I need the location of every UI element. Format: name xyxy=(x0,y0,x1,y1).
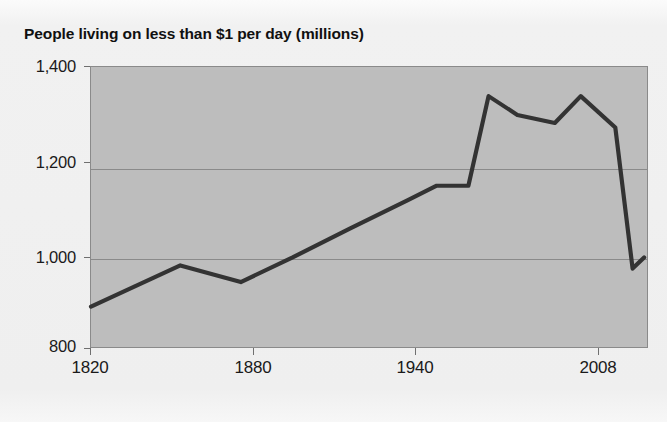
x-axis-tick-label-1880: 1880 xyxy=(208,358,298,378)
x-axis-tick-mark-1820 xyxy=(90,348,91,355)
y-axis-tick-label-1200: 1,200 xyxy=(6,153,76,172)
chart-figure: People living on less than $1 per day (m… xyxy=(0,0,667,422)
series-polyline xyxy=(91,96,644,307)
x-axis-tick-mark-1880 xyxy=(253,348,254,355)
x-axis-tick-label-1820: 1820 xyxy=(45,358,135,378)
x-axis-tick-mark-2008 xyxy=(598,348,599,355)
y-axis-tick-label-800: 800 xyxy=(6,337,76,356)
plot-wrapper: 1,400 1,200 1,000 800 1820 1880 1940 200… xyxy=(0,0,667,422)
y-axis-tick-label-1400: 1,400 xyxy=(6,57,76,76)
x-axis-tick-label-1940: 1940 xyxy=(370,358,460,378)
y-axis-tick-label-1000: 1,000 xyxy=(6,248,76,267)
x-axis-tick-label-2008: 2008 xyxy=(553,358,643,378)
data-series-line xyxy=(91,67,647,347)
x-axis-tick-mark-1940 xyxy=(415,348,416,355)
plot-area xyxy=(90,66,648,348)
